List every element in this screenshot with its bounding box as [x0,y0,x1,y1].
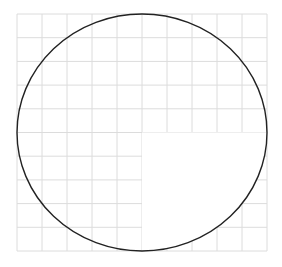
blank-quadrant [142,133,267,252]
diagram-canvas [0,0,282,267]
